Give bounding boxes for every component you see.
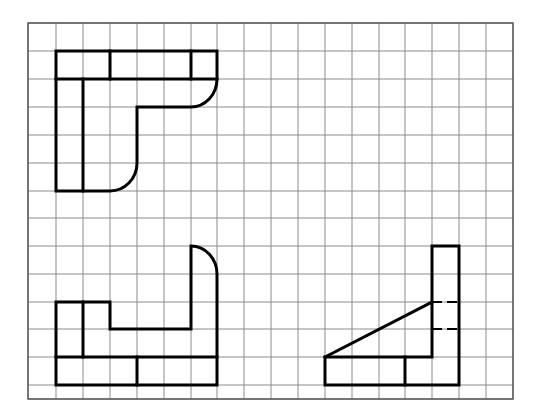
drawing-canvas <box>0 0 539 419</box>
side-view <box>325 246 459 385</box>
outline-path <box>325 246 459 385</box>
